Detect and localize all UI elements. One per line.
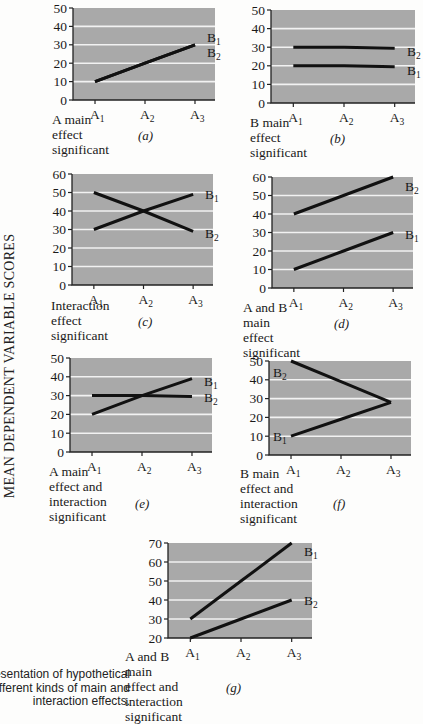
y-tick-label: 40 xyxy=(54,19,68,34)
y-tick-label: 40 xyxy=(250,372,264,387)
y-tick-label: 0 xyxy=(258,96,265,111)
y-tick-label: 20 xyxy=(149,631,163,646)
y-tick-label: 50 xyxy=(51,351,65,366)
y-tick-label: 10 xyxy=(253,262,267,277)
x-tick-label: A2 xyxy=(339,295,354,312)
series-label: B2 xyxy=(204,390,218,407)
series-label: B2 xyxy=(304,593,318,610)
axes xyxy=(70,358,212,452)
y-tick-label: 0 xyxy=(259,281,266,296)
y-tick-label: 10 xyxy=(53,259,67,274)
y-tick-label: 30 xyxy=(252,40,266,55)
y-tick-label: 40 xyxy=(149,593,163,608)
y-tick-label: 50 xyxy=(54,1,68,16)
chart-title: A main effect and interaction significan… xyxy=(49,464,107,524)
x-tick-label: A3 xyxy=(190,107,205,124)
series-label: B1 xyxy=(205,187,219,204)
y-tick-label: 40 xyxy=(53,204,67,219)
axes xyxy=(272,177,413,288)
chart-title: B main effect and interaction significan… xyxy=(240,466,298,526)
y-tick-label: 20 xyxy=(54,56,68,71)
x-tick-label: A2 xyxy=(339,110,354,127)
series-line-b1 xyxy=(92,379,192,415)
y-tick-label: 0 xyxy=(60,93,67,108)
x-tick-label: A2 xyxy=(236,645,251,662)
y-tick-label: 30 xyxy=(51,388,65,403)
series-line-b1 xyxy=(291,402,391,436)
y-tick-label: 50 xyxy=(149,574,163,589)
series-label: B1 xyxy=(304,544,318,561)
chart-title: A and B main effect and interaction sign… xyxy=(125,649,183,724)
x-tick-label: A2 xyxy=(140,107,155,124)
panel-letter: (b) xyxy=(330,131,345,147)
y-tick-label: 40 xyxy=(253,207,267,222)
plot-area xyxy=(73,8,215,100)
x-tick-label: A3 xyxy=(390,110,405,127)
plot-area xyxy=(72,174,213,285)
y-tick-label: 50 xyxy=(253,188,267,203)
y-tick-label: 20 xyxy=(51,407,65,422)
series-line-b2 xyxy=(92,396,192,397)
y-tick-label: 60 xyxy=(253,170,267,185)
y-tick-label: 20 xyxy=(253,244,267,259)
x-tick-label: A3 xyxy=(287,645,302,662)
y-tick-label: 30 xyxy=(253,225,267,240)
panel-letter: (e) xyxy=(135,496,149,512)
panel-letter: (d) xyxy=(334,316,349,332)
series-label: B1 xyxy=(207,30,221,47)
panel-letter: (g) xyxy=(226,680,241,696)
series-label: B2 xyxy=(207,45,221,62)
panel-letter: (f) xyxy=(333,496,345,512)
y-tick-label: 50 xyxy=(252,3,266,18)
series-label: B2 xyxy=(273,365,287,382)
y-tick-label: 30 xyxy=(149,612,163,627)
series-line-b2 xyxy=(291,361,391,402)
y-tick-label: 10 xyxy=(51,426,65,441)
series-label: B2 xyxy=(405,179,419,196)
figure-caption: esentation of hypothetical fferent kinds… xyxy=(0,668,130,709)
y-tick-label: 0 xyxy=(59,278,66,293)
series-line-b1 xyxy=(95,45,195,82)
plot-area xyxy=(271,10,415,103)
y-tick-label: 20 xyxy=(53,241,67,256)
y-tick-label: 30 xyxy=(53,222,67,237)
series-label: B1 xyxy=(273,429,287,446)
y-tick-label: 10 xyxy=(54,74,68,89)
series-label: B1 xyxy=(407,63,421,80)
x-tick-label: A3 xyxy=(187,459,202,476)
chart-title: A main effect significant xyxy=(52,112,109,157)
x-tick-label: A1 xyxy=(185,645,200,662)
y-tick-label: 30 xyxy=(54,37,68,52)
series-line-b2 xyxy=(95,45,195,82)
y-tick-label: 60 xyxy=(53,167,67,182)
y-tick-label: 20 xyxy=(250,410,264,425)
chart-title: A and B main effect significant xyxy=(243,300,300,360)
series-line-b2 xyxy=(190,600,291,638)
panel-letter: (a) xyxy=(138,128,153,144)
series-label: B1 xyxy=(405,227,419,244)
series-line-b1 xyxy=(94,194,193,229)
series-line-b1 xyxy=(293,66,394,67)
x-tick-label: A3 xyxy=(188,292,203,309)
plot-area xyxy=(269,361,411,455)
y-tick-label: 50 xyxy=(53,185,67,200)
y-tick-label: 70 xyxy=(149,536,163,551)
y-tick-label: 40 xyxy=(51,369,65,384)
chart-title: B main effect significant xyxy=(250,115,307,160)
series-label: B2 xyxy=(205,226,219,243)
x-tick-label: A2 xyxy=(139,292,154,309)
y-tick-label: 10 xyxy=(250,429,264,444)
axes xyxy=(72,174,213,285)
axes xyxy=(73,8,215,100)
series-line-b2 xyxy=(94,193,193,232)
series-line-b1 xyxy=(190,543,291,619)
series-label: B2 xyxy=(407,44,421,61)
plot-area xyxy=(70,358,212,452)
series-line-b2 xyxy=(293,47,394,48)
